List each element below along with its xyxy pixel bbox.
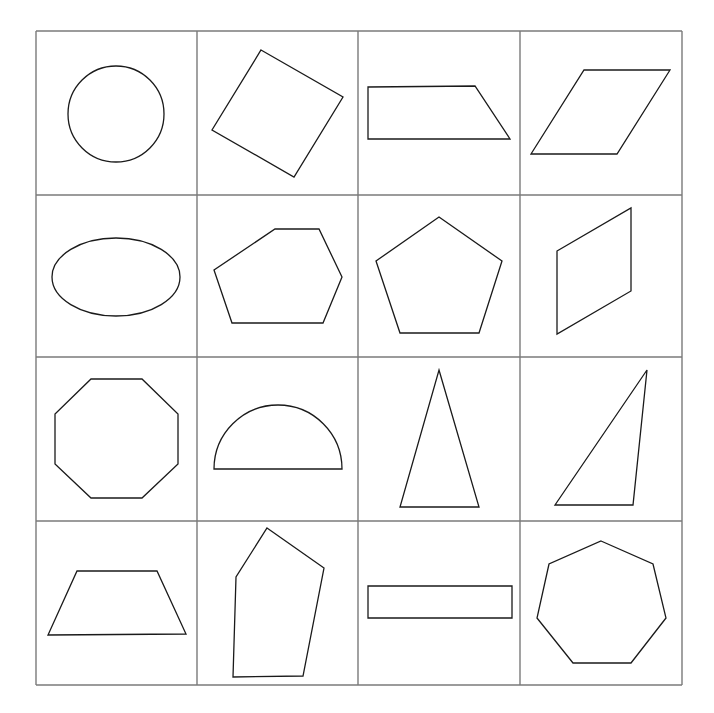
ellipse-shape: [52, 238, 180, 316]
grid-cell-r1-c2: [376, 217, 502, 333]
grid-cell-r2-c1: [214, 405, 342, 469]
regular-pentagon-shape: [376, 217, 502, 333]
grid-cell-r1-c0: [52, 238, 180, 316]
grid-cell-r0-c1: [212, 50, 343, 177]
grid-cell-r2-c2: [400, 370, 479, 507]
thin-rectangle-shape: [368, 586, 512, 618]
isosceles-triangle-shape: [400, 370, 479, 507]
grid-cell-r0-c3: [531, 70, 670, 154]
semicircle-shape: [214, 405, 342, 469]
grid-cell-r1-c3: [557, 208, 631, 334]
irregular-pentagon-shape: [233, 528, 324, 677]
grid-cell-r2-c0: [55, 379, 178, 498]
grid-cell-r2-c3: [555, 370, 647, 505]
heptagon-shape: [537, 541, 666, 663]
octagon-shape: [55, 379, 178, 498]
grid-cell-r0-c2: [368, 86, 510, 139]
grid-cell-r3-c0: [48, 571, 186, 635]
right-trapezoid-shape: [368, 86, 510, 139]
grid-cell-r3-c2: [368, 586, 512, 618]
scalene-triangle-shape: [555, 370, 647, 505]
circle-shape: [68, 66, 164, 162]
grid-cell-r3-c1: [233, 528, 324, 677]
slanted-parallelogram-shape: [557, 208, 631, 334]
grid-cell-r0-c0: [68, 66, 164, 162]
grid-cell-r3-c3: [537, 541, 666, 663]
parallelogram-shape: [531, 70, 670, 154]
shapes: [48, 50, 670, 677]
grid-cell-r1-c1: [214, 229, 342, 323]
grid-lines: [36, 31, 682, 685]
rotated-square-shape: [212, 50, 343, 177]
isosceles-trapezoid-shape: [48, 571, 186, 635]
irregular-hexagon-shape: [214, 229, 342, 323]
shapes-grid-canvas: [0, 0, 714, 713]
